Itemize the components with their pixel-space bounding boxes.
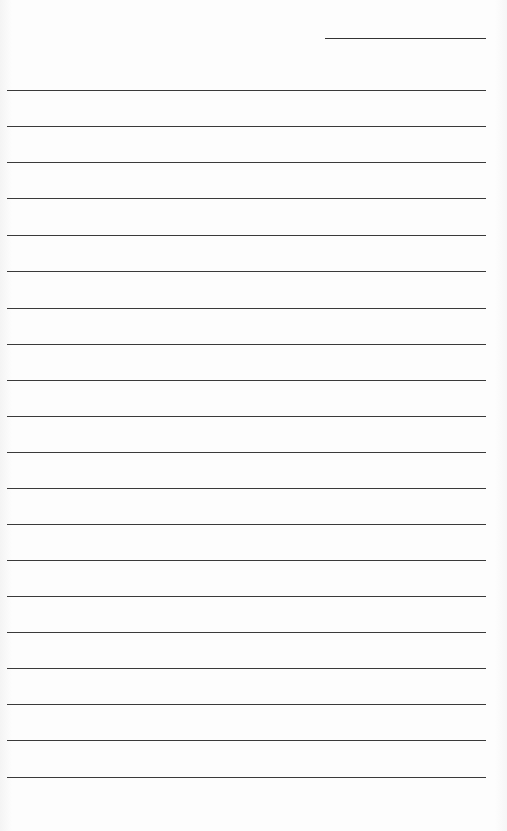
header-name-line bbox=[325, 38, 486, 39]
ruled-line bbox=[7, 235, 486, 236]
ruled-line bbox=[7, 90, 486, 91]
ruled-line bbox=[7, 740, 486, 741]
ruled-line bbox=[7, 632, 486, 633]
ruled-line bbox=[7, 126, 486, 127]
ruled-line bbox=[7, 198, 486, 199]
ruled-line bbox=[7, 271, 486, 272]
ruled-line bbox=[7, 596, 486, 597]
ruled-line bbox=[7, 308, 486, 309]
ruled-line bbox=[7, 416, 486, 417]
ruled-line bbox=[7, 452, 486, 453]
ruled-line bbox=[7, 488, 486, 489]
ruled-line bbox=[7, 777, 486, 778]
lined-paper-page bbox=[0, 0, 507, 831]
ruled-line bbox=[7, 380, 486, 381]
ruled-line bbox=[7, 668, 486, 669]
ruled-line bbox=[7, 704, 486, 705]
ruled-line bbox=[7, 524, 486, 525]
ruled-line bbox=[7, 162, 486, 163]
ruled-line bbox=[7, 560, 486, 561]
ruled-line bbox=[7, 344, 486, 345]
